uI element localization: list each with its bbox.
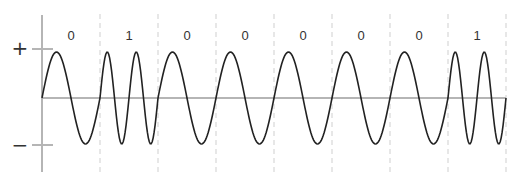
bit-label: 0	[183, 28, 190, 43]
bit-label: 1	[473, 28, 480, 43]
bit-label: 0	[357, 28, 364, 43]
bit-label: 0	[67, 28, 74, 43]
bit-label: 0	[241, 28, 248, 43]
bit-label: 0	[299, 28, 306, 43]
fsk-diagram: + − 01000001	[0, 0, 519, 179]
bit-label: 0	[415, 28, 422, 43]
negative-label: −	[12, 133, 29, 157]
bit-label: 1	[125, 28, 132, 43]
positive-label: +	[12, 36, 29, 60]
